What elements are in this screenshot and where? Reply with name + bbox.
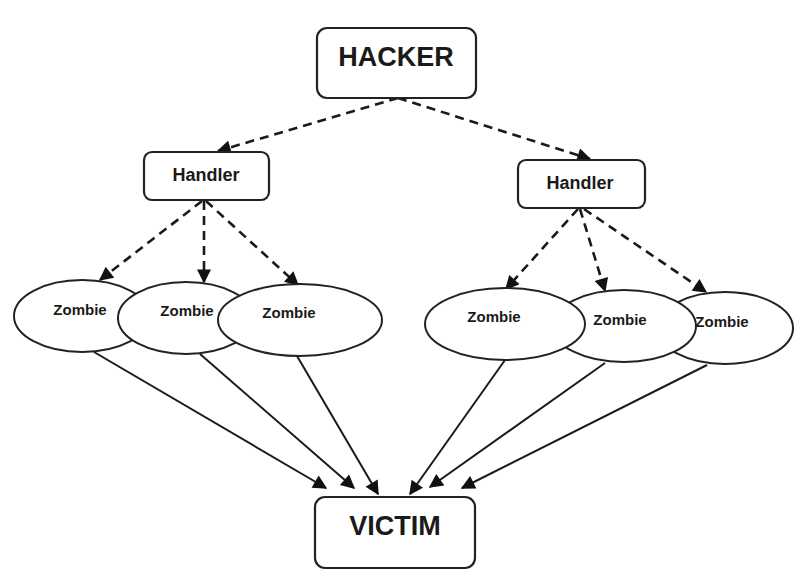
edge-handler-left-zombie-3 <box>206 201 298 285</box>
handler-right-to-zombie-edges <box>506 209 706 292</box>
zombie-to-victim-edges <box>94 352 707 494</box>
zombie-label-left-3: Zombie <box>262 304 315 321</box>
handler-label-right: Handler <box>546 173 613 193</box>
edge-handler-right-zombie-1 <box>506 209 578 289</box>
zombie-group-left: Zombie Zombie Zombie <box>14 280 382 356</box>
zombie-label-left-1: Zombie <box>53 301 106 318</box>
zombie-label-left-2: Zombie <box>160 302 213 319</box>
hacker-label: HACKER <box>338 42 454 72</box>
edge-hacker-handler-right <box>398 98 590 159</box>
ddos-diagram: Zombie Zombie Zombie Zombie Zombie Zombi… <box>0 0 806 585</box>
edge-zombie-right-2-victim <box>430 363 605 487</box>
edge-handler-left-zombie-1 <box>100 201 202 280</box>
zombie-group-right: Zombie Zombie Zombie <box>425 288 793 364</box>
edge-zombie-right-3-victim <box>462 365 707 488</box>
zombie-label-right-2: Zombie <box>593 311 646 328</box>
edge-zombie-left-2-victim <box>200 354 354 488</box>
handler-node-right: Handler <box>518 160 645 208</box>
zombie-label-right-1: Zombie <box>467 308 520 325</box>
handler-node-left: Handler <box>144 152 269 200</box>
edge-hacker-handler-left <box>218 98 398 151</box>
handler-label-left: Handler <box>172 165 239 185</box>
zombie-label-right-3: Zombie <box>695 313 748 330</box>
edge-handler-right-zombie-3 <box>584 209 706 292</box>
hacker-to-handler-edges <box>218 98 590 159</box>
edge-zombie-left-1-victim <box>94 352 326 488</box>
victim-label: VICTIM <box>349 511 441 541</box>
hacker-node: HACKER <box>317 28 476 98</box>
handler-left-to-zombie-edges <box>100 201 298 285</box>
victim-node: VICTIM <box>315 497 475 568</box>
